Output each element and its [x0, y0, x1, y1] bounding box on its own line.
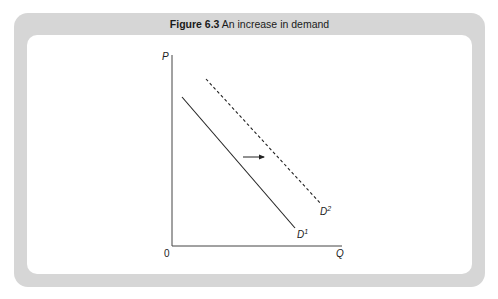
- demand-chart: [0, 0, 498, 299]
- x-axis-label: Q: [336, 248, 344, 259]
- d2-label-sup: 2: [327, 205, 331, 212]
- demand-curve-d1: [182, 97, 295, 228]
- origin-label: 0: [164, 248, 170, 259]
- y-axis-label: P: [162, 51, 169, 62]
- d2-label: D2: [320, 205, 331, 217]
- d1-label-sup: 1: [304, 228, 308, 235]
- d1-label: D1: [297, 228, 308, 240]
- demand-curve-d2: [206, 79, 321, 204]
